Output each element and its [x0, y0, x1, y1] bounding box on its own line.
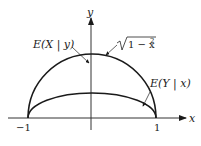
conditional-expectation-y-curve	[28, 93, 156, 118]
tick-label-neg1: −1	[16, 122, 31, 133]
e-y-given-x-label: E(Y | x)	[149, 77, 191, 91]
x-axis-label: x	[189, 112, 196, 125]
e-x-given-y-label: E(X | y)	[32, 38, 74, 52]
semicircle-label: 1 − x 2	[117, 37, 156, 50]
y-axis-label: y	[86, 6, 94, 19]
svg-text:2: 2	[150, 37, 154, 45]
semicircle-curve	[28, 54, 156, 118]
semicircle-label-pointer	[106, 45, 117, 55]
tick-label-1: 1	[154, 122, 160, 133]
conditional-expectation-diagram: x y −1 1 1 − x 2 E(X | y) E(Y | x)	[0, 0, 201, 146]
